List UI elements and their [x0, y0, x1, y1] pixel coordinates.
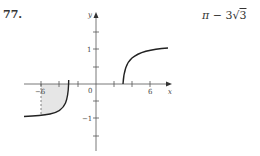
x-tick-label-neg6: −6: [35, 88, 46, 96]
x-axis-label: x: [168, 88, 172, 96]
x-axis-arrow-icon: [166, 82, 172, 87]
y-tick-label-neg1: −1: [82, 115, 92, 123]
function-graph: y x 0 −6 6 1 −1: [0, 0, 260, 156]
y-axis-arrow-icon: [94, 12, 99, 18]
right-branch-curve: [123, 48, 168, 84]
y-tick-label-1: 1: [87, 46, 91, 54]
x-tick-label-6: 6: [148, 88, 153, 96]
origin-label: 0: [88, 87, 92, 95]
y-axis-label: y: [87, 11, 93, 19]
